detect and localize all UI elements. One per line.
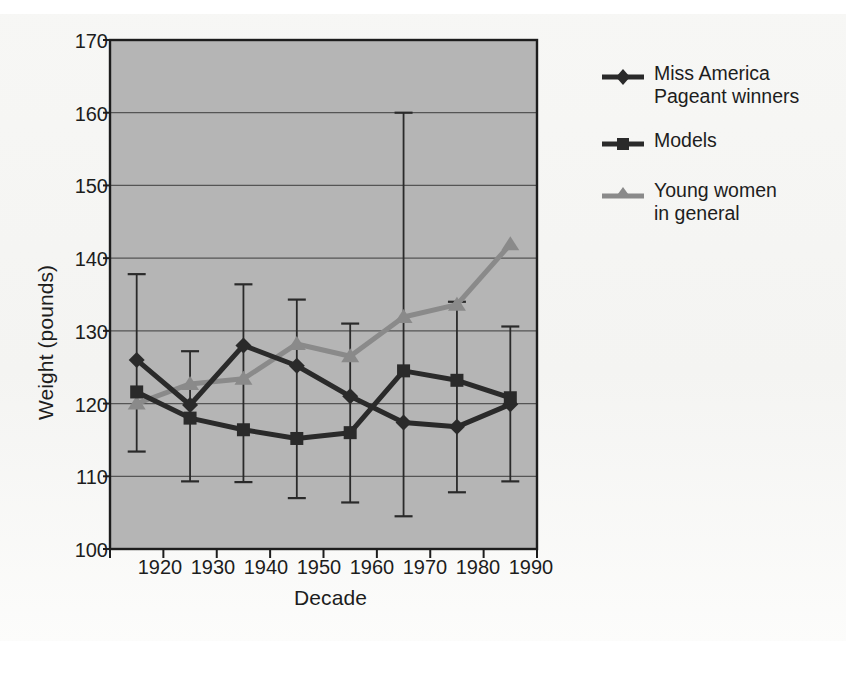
figure-container: 170 160 150 140 130 120 110 100 1920 193… (0, 0, 846, 677)
legend-label-models: Models (646, 129, 717, 152)
legend-item-miss-america: Miss America Pageant winners (600, 62, 840, 107)
y-tick-150: 150 (52, 175, 108, 198)
square-marker-icon (600, 131, 646, 157)
legend-item-young-women: Young women in general (600, 179, 840, 224)
y-tick-170: 170 (52, 30, 108, 53)
y-tick-160: 160 (52, 103, 108, 126)
chart-legend: Miss America Pageant winners Models Youn… (600, 62, 840, 246)
y-tick-130: 130 (52, 321, 108, 344)
legend-label-young-women: Young women in general (646, 179, 777, 224)
y-tick-100: 100 (52, 539, 108, 562)
y-tick-140: 140 (52, 248, 108, 271)
y-tick-120: 120 (52, 394, 108, 417)
x-axis-title: Decade (294, 586, 367, 610)
y-axis-title: Weight (pounds) (34, 265, 58, 420)
legend-label-miss-america: Miss America Pageant winners (646, 62, 799, 107)
diamond-marker-icon (600, 64, 646, 90)
legend-item-models: Models (600, 129, 840, 157)
y-tick-110: 110 (52, 466, 108, 489)
x-tick-1990: 1990 (496, 556, 566, 579)
triangle-marker-icon (600, 181, 646, 207)
